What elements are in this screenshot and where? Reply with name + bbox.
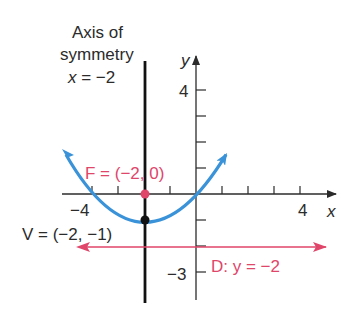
y-axis-label: y bbox=[180, 51, 191, 70]
axis-of-symmetry-label-line1: Axis of bbox=[72, 23, 123, 42]
x-tick-label-neg4: −4 bbox=[70, 201, 89, 220]
y-tick-label-4: 4 bbox=[179, 82, 188, 101]
y-tick-label-neg3: −3 bbox=[167, 265, 186, 284]
vertex-label: V = (−2, −1) bbox=[22, 225, 112, 244]
focus-label: F = (−2, 0) bbox=[85, 164, 164, 183]
parabola-diagram: Axis of symmetry x = −2 y x 4 −3 −4 4 F … bbox=[0, 0, 357, 312]
axis-of-symmetry-equation: x = −2 bbox=[67, 68, 115, 87]
x-axis-label: x bbox=[326, 202, 336, 221]
focus-point bbox=[141, 190, 150, 199]
y-ticks bbox=[196, 90, 206, 272]
directrix-label: D: y = −2 bbox=[211, 257, 280, 276]
x-tick-label-4: 4 bbox=[298, 201, 307, 220]
axis-of-symmetry-label-line2: symmetry bbox=[60, 45, 134, 64]
vertex-point bbox=[141, 216, 150, 225]
